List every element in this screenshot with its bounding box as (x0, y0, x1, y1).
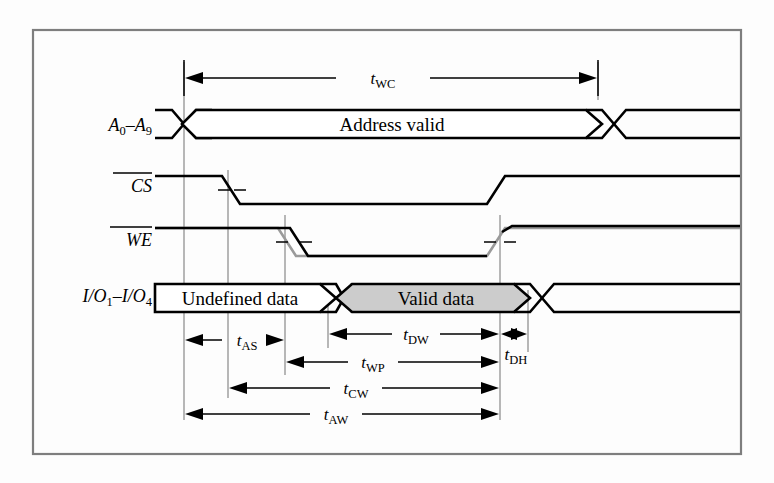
timing-twc: tWC (184, 60, 598, 96)
signal-write-enable: WE (110, 226, 740, 256)
timing-diagram-canvas: tWC A0–A9 Address valid CS (0, 0, 774, 483)
signal-label-we: WE (126, 230, 152, 250)
signal-chip-select: CS (113, 173, 740, 204)
timing-label-twc: tWC (371, 69, 396, 91)
timing-tdw: tDW (329, 325, 499, 347)
arrowhead-right (579, 72, 597, 84)
timing-label-tdh: tDH (505, 345, 528, 367)
we-waveform-secondary (155, 228, 740, 256)
undefined-data-text: Undefined data (182, 288, 299, 309)
signal-data-io: I/O1–I/O4 Undefined data Valid data (82, 284, 741, 312)
timing-label-tcw: tCW (344, 379, 369, 401)
timing-label-twp: tWP (361, 353, 385, 375)
valid-data-text: Valid data (398, 288, 475, 309)
timing-label-taw: tAW (324, 405, 349, 427)
signal-label-address: A0–A9 (108, 115, 153, 138)
address-valid-text: Address valid (339, 114, 445, 135)
signal-address: A0–A9 Address valid (108, 110, 741, 138)
timing-twp: tWP (286, 353, 499, 375)
timing-taw: tAW (185, 405, 499, 427)
timing-tdh: tDH (501, 328, 527, 367)
timing-label-tdw: tDW (403, 325, 429, 347)
timing-tcw: tCW (229, 379, 499, 401)
signal-label-cs: CS (131, 176, 152, 196)
timing-diagram-figure: tWC A0–A9 Address valid CS (0, 0, 774, 483)
arrowhead-left (185, 72, 203, 84)
timing-tas: tAS (185, 331, 284, 353)
signal-label-data-io: I/O1–I/O4 (82, 286, 153, 309)
we-waveform-primary (155, 228, 487, 256)
timing-label-tas: tAS (237, 331, 258, 353)
